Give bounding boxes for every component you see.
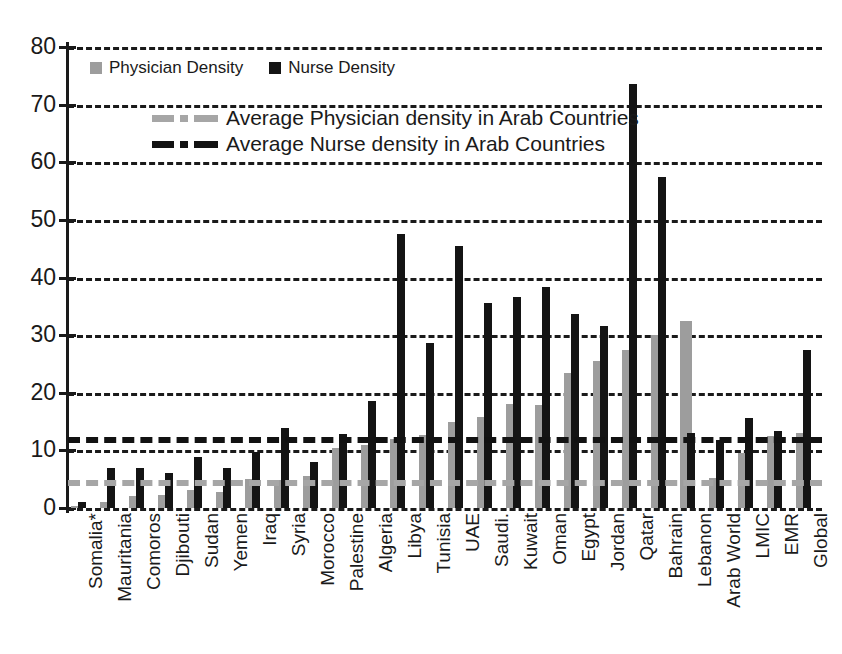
- average-nurse-line: [68, 437, 822, 443]
- bar-nurse-density: [658, 177, 666, 508]
- x-axis-label: Palestine: [347, 513, 366, 591]
- y-tick-label: 60: [0, 150, 56, 173]
- y-tick-label: 10: [0, 438, 56, 461]
- bar-nurse-density: [223, 468, 231, 508]
- x-axis-label: Jordan: [608, 513, 627, 571]
- bar-nurse-density: [513, 297, 521, 508]
- bar-nurse-density: [687, 433, 695, 508]
- x-axis-label: Lebanon: [695, 513, 714, 587]
- bar-nurse-density: [136, 468, 144, 508]
- bar-nurse-density: [368, 401, 376, 508]
- chart-container: 01020304050607080 Physician Density Nurs…: [0, 0, 842, 654]
- legend-average-physician-label: Average Physician density in Arab Countr…: [226, 106, 639, 130]
- x-axis-label: LMIC: [753, 513, 772, 558]
- legend-average-nurse-label: Average Nurse density in Arab Countries: [226, 132, 605, 156]
- x-axis-label: Global: [811, 513, 830, 568]
- bar-nurse-density: [629, 84, 637, 508]
- x-axis-label: Somalia*: [86, 513, 105, 589]
- x-axis-label: Djibouti: [173, 513, 192, 576]
- bar-nurse-density: [455, 246, 463, 508]
- bar-nurse-density: [745, 418, 753, 508]
- bar-nurse-density: [107, 468, 115, 508]
- legend-average-physician: Average Physician density in Arab Countr…: [152, 106, 639, 130]
- legend-series: Physician Density Nurse Density: [90, 58, 395, 78]
- y-tick-label: 40: [0, 266, 56, 289]
- x-axis-labels: Somalia*MauritaniaComorosDjiboutiSudanYe…: [68, 513, 822, 653]
- x-axis-label: EMR: [782, 513, 801, 555]
- y-tick-label: 20: [0, 381, 56, 404]
- x-axis-label: Comoros: [144, 513, 163, 590]
- bar-nurse-density: [484, 303, 492, 508]
- average-physician-line: [68, 480, 822, 486]
- legend-nurse-label: Nurse Density: [288, 58, 395, 78]
- x-axis-label: Kuwait: [521, 513, 540, 570]
- bar-nurse-density: [78, 502, 86, 508]
- bar-nurse-density: [716, 440, 724, 508]
- physician-swatch: [90, 62, 102, 74]
- nurse-swatch: [269, 62, 281, 74]
- y-tick-label: 30: [0, 323, 56, 346]
- x-axis-label: Sudan: [202, 513, 221, 568]
- dash-dot-key-nurse-icon: [152, 141, 218, 148]
- x-axis-label: Iraq: [260, 513, 279, 546]
- legend-physician-label: Physician Density: [109, 58, 243, 78]
- x-axis-label: UAE: [463, 513, 482, 552]
- x-axis-label: Oman: [550, 513, 569, 565]
- x-axis-label: Qatar: [637, 513, 656, 561]
- x-axis-label: Yemen: [231, 513, 250, 571]
- gridline: [68, 508, 822, 511]
- x-axis-label: Libya: [405, 513, 424, 558]
- bar-nurse-density: [397, 234, 405, 508]
- dash-dot-key-physician-icon: [152, 115, 218, 122]
- x-axis-label: Mauritania: [115, 513, 134, 602]
- y-tick-label: 80: [0, 35, 56, 58]
- bar-nurse-density: [339, 434, 347, 508]
- x-axis-label: Tunisia: [434, 513, 453, 574]
- x-axis-label: Syria: [289, 513, 308, 556]
- x-axis-label: Bahrain: [666, 513, 685, 579]
- y-tick-label: 70: [0, 93, 56, 116]
- x-axis-label: Saudi.: [492, 513, 511, 567]
- y-tick-label: 50: [0, 208, 56, 231]
- x-axis-label: Egypt: [579, 513, 598, 562]
- bar-nurse-density: [571, 314, 579, 508]
- bar-nurse-density: [165, 473, 173, 508]
- x-axis-label: Algeria: [376, 513, 395, 572]
- x-axis-label: Arab World: [724, 513, 743, 608]
- bar-nurse-density: [542, 287, 550, 508]
- x-axis-label: Morocco: [318, 513, 337, 586]
- legend-average-nurse: Average Nurse density in Arab Countries: [152, 132, 605, 156]
- bar-nurse-density: [774, 431, 782, 508]
- y-tick-label: 0: [0, 496, 56, 519]
